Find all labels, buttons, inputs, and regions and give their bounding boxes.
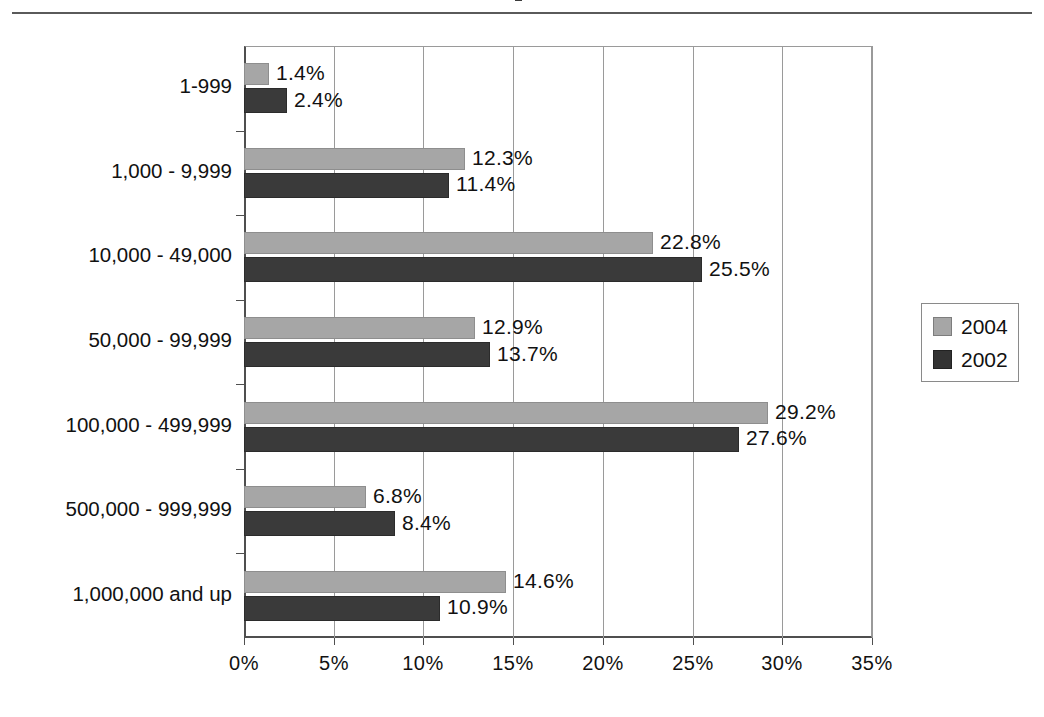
bar-value-label: 12.3% [472,146,533,170]
bar-2002-100-000-499-999 [244,427,739,452]
y-axis-tick [236,131,244,132]
bar-2004-1-000-000-and-up [244,571,506,593]
x-axis-tick [603,638,604,645]
bar-2004-1-000-9-999 [244,148,465,170]
bar-chart-figure: 0%5%10%15%20%25%30%35% 1-9991,000 - 9,99… [0,0,1044,717]
bar-value-label: 8.4% [402,511,451,535]
legend-swatch-2002-icon [933,350,952,369]
bar-value-label: 14.6% [513,569,574,593]
category-label: 1,000,000 and up [72,582,232,606]
bar-value-label: 1.4% [276,61,325,85]
x-axis-tick-label: 0% [204,652,284,675]
bar-2002-50-000-99-999 [244,342,490,367]
category-label: 10,000 - 49,000 [88,243,232,267]
x-axis-tick-label: 25% [653,652,733,675]
bar-value-label: 2.4% [294,88,343,112]
bar-value-label: 12.9% [482,315,543,339]
category-label: 1,000 - 9,999 [111,159,232,183]
bar-2004-50-000-99-999 [244,317,475,339]
bar-2004-500-000-999-999 [244,486,366,508]
bar-value-label: 11.4% [456,172,516,196]
x-axis-tick-label: 10% [383,652,463,675]
category-label: 500,000 - 999,999 [66,497,232,521]
bar-value-label: 25.5% [709,257,770,281]
x-axis-tick-label: 20% [563,652,643,675]
x-axis-tick [244,638,245,645]
category-label: 100,000 - 499,999 [66,413,232,437]
bar-2002-500-000-999-999 [244,511,395,536]
y-axis-tick [236,215,244,216]
y-axis-tick [236,300,244,301]
legend-swatch-2004-icon [933,317,952,336]
gridline [782,46,783,638]
gridline [872,46,873,638]
x-axis-tick [513,638,514,645]
chart-legend: 2004 2002 [921,303,1019,382]
category-label: 1-999 [180,74,232,98]
legend-item-2004[interactable]: 2004 [933,316,1008,337]
bar-value-label: 29.2% [775,400,836,424]
x-axis-tick-label: 35% [832,652,912,675]
x-axis-tick-label: 30% [742,652,822,675]
bar-2004-10-000-49-000 [244,232,653,254]
x-axis-tick [872,638,873,645]
bar-value-label: 22.8% [660,230,721,254]
x-axis-tick-label: 5% [294,652,374,675]
y-axis-tick [236,553,244,554]
x-axis-tick [693,638,694,645]
gridline [603,46,604,638]
x-axis-tick [423,638,424,645]
x-axis-tick [334,638,335,645]
bar-value-label: 13.7% [497,342,558,366]
bar-2002-1-000-000-and-up [244,596,440,621]
bar-2002-1-999 [244,88,287,113]
bar-2002-10-000-49-000 [244,257,702,282]
bar-value-label: 6.8% [373,484,422,508]
bar-2002-1-000-9-999 [244,173,449,198]
x-axis-tick [782,638,783,645]
x-axis-tick-label: 15% [473,652,553,675]
bar-value-label: 10.9% [447,595,508,619]
bar-2004-100-000-499-999 [244,402,768,424]
legend-label-2004: 2004 [961,316,1008,337]
y-axis-tick [236,384,244,385]
category-label: 50,000 - 99,999 [88,328,232,352]
legend-label-2002: 2002 [961,349,1008,370]
legend-item-2002[interactable]: 2002 [933,349,1008,370]
bar-value-label: 27.6% [746,426,807,450]
y-axis-tick [236,469,244,470]
bar-2004-1-999 [244,63,269,85]
gridline [693,46,694,638]
